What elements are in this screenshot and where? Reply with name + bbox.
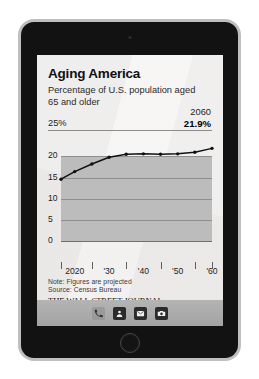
home-button[interactable]: [120, 333, 140, 353]
series-line: [48, 130, 212, 262]
y-axis-top-label: 25%: [48, 118, 67, 128]
phone-icon[interactable]: [92, 307, 105, 320]
tablet-bezel: Aging America Percentage of U.S. populat…: [21, 22, 238, 358]
data-point: [59, 178, 62, 181]
x-axis-label: 2020: [61, 266, 89, 276]
x-axis-label: '30: [95, 266, 123, 276]
chart-source: Source: Census Bureau: [48, 286, 121, 293]
data-point: [176, 152, 179, 155]
chart-subtitle: Percentage of U.S. population aged 65 an…: [48, 85, 198, 108]
data-point: [159, 153, 162, 156]
endpoint-callout-value: 21.9%: [184, 118, 211, 129]
app-dock: [37, 300, 223, 326]
data-point: [142, 152, 145, 155]
camera-icon[interactable]: [155, 307, 168, 320]
chart-canvas: Aging America Percentage of U.S. populat…: [37, 55, 223, 300]
x-axis-tick: [126, 262, 127, 269]
chart-title: Aging America: [48, 66, 140, 81]
front-camera-icon: [128, 36, 131, 39]
mail-icon[interactable]: [134, 307, 147, 320]
tablet-device: Aging America Percentage of U.S. populat…: [18, 19, 241, 361]
x-axis-tick: [92, 262, 93, 269]
x-axis-label: '60: [198, 266, 223, 276]
data-point: [210, 147, 213, 150]
x-axis: 2020'30'40'50'60: [61, 262, 212, 276]
data-point: [193, 150, 196, 153]
endpoint-callout-year: 2060: [190, 107, 211, 117]
data-point: [73, 170, 76, 173]
data-point: [125, 153, 128, 156]
data-point: [107, 156, 110, 159]
data-point: [90, 162, 93, 165]
x-axis-label: '50: [164, 266, 192, 276]
contacts-icon[interactable]: [113, 307, 126, 320]
x-axis-tick: [161, 262, 162, 269]
tablet-screen[interactable]: Aging America Percentage of U.S. populat…: [37, 55, 223, 326]
chart-note: Note: Figures are projected: [48, 278, 132, 285]
x-axis-tick: [195, 262, 196, 269]
plot-area: 20 15 10 5 0: [48, 130, 212, 262]
x-axis-label: '40: [129, 266, 157, 276]
